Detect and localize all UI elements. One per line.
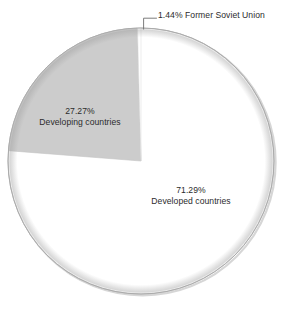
pie-chart-figure: 1.44% Former Soviet Union 27.27% Develop… bbox=[0, 0, 281, 309]
leader-line-former-soviet-union bbox=[144, 18, 157, 29]
pie-outline bbox=[8, 28, 274, 294]
pie-chart-canvas bbox=[0, 0, 281, 309]
